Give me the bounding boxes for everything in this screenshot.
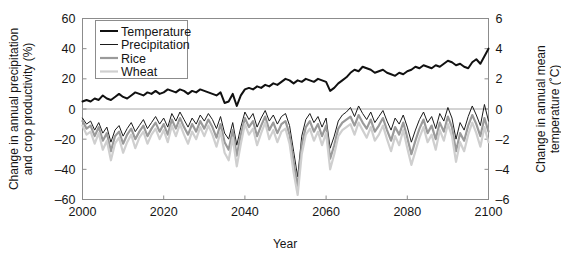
- y-tick-label: 60: [62, 12, 76, 26]
- chart-legend: TemperaturePrecipitationRiceWheat: [96, 21, 192, 80]
- legend-label-rice: Rice: [121, 52, 146, 66]
- y-axis-title: Change in annual precipitation and crop …: [7, 28, 35, 190]
- y2-tick-label: 6: [496, 12, 503, 26]
- y2-axis-title-line1: Change in annual mean: [534, 45, 548, 172]
- chart-figure: 200020202040206020802100 6040200–20–40–6…: [0, 0, 561, 258]
- x-tick-label: 2060: [312, 205, 340, 219]
- y-axis-title-line1: Change in annual precipitation: [7, 28, 21, 190]
- legend-label-temperature: Temperature: [121, 25, 191, 39]
- y2-tick-label: 0: [496, 103, 503, 117]
- y-axis-title-line2: and crop productivity (%): [21, 43, 35, 176]
- y2-tick-label: –6: [496, 193, 510, 207]
- y-tick-label: 20: [62, 72, 76, 86]
- y-tick-label: –40: [55, 163, 76, 177]
- x-tick-label: 2020: [150, 205, 178, 219]
- y-tick-label: –60: [55, 193, 76, 207]
- y2-axis-title-line2: temperature (˚C): [548, 65, 561, 154]
- legend-label-wheat: Wheat: [121, 65, 158, 79]
- y2-tick-label: 4: [496, 42, 503, 56]
- y2-tick-label: –4: [496, 163, 510, 177]
- y-tick-label: –20: [55, 133, 76, 147]
- climate-crop-line-chart: 200020202040206020802100 6040200–20–40–6…: [0, 0, 561, 258]
- y2-tick-label: –2: [496, 133, 510, 147]
- x-tick-label: 2040: [231, 205, 259, 219]
- x-tick-label: 2080: [393, 205, 421, 219]
- x-axis-title: Year: [273, 237, 297, 251]
- y-tick-label: 0: [69, 103, 76, 117]
- legend-label-precipitation: Precipitation: [121, 38, 190, 52]
- y-tick-label: 40: [62, 42, 76, 56]
- y2-tick-label: 2: [496, 72, 503, 86]
